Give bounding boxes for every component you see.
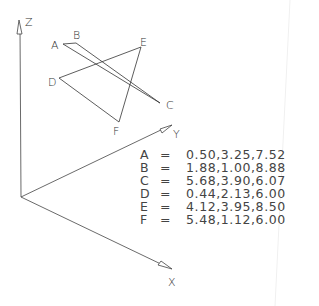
y-axis-label: Y bbox=[173, 128, 180, 141]
coordinate-row-f: F=5.48,1.12,6.00 bbox=[140, 213, 286, 226]
z-axis-label: Z bbox=[25, 16, 33, 29]
triangle-abc bbox=[63, 43, 160, 103]
y-axis-arrowhead bbox=[160, 125, 172, 133]
z-axis-line bbox=[20, 28, 21, 197]
point-label-f: F bbox=[113, 125, 119, 138]
x-axis-arrowhead bbox=[158, 261, 172, 269]
point-label-b: B bbox=[73, 29, 80, 42]
point-label-e: E bbox=[140, 36, 147, 49]
triangle-def bbox=[59, 47, 141, 122]
coordinates-table: A=0.50,3.25,7.52 B=1.88,1.00,8.88 C=5.68… bbox=[140, 148, 286, 226]
point-label-d: D bbox=[48, 76, 56, 89]
point-label-a: A bbox=[51, 39, 59, 52]
x-axis-label: X bbox=[168, 276, 176, 289]
z-axis-arrowhead bbox=[17, 20, 22, 34]
point-label-c: C bbox=[166, 99, 174, 112]
